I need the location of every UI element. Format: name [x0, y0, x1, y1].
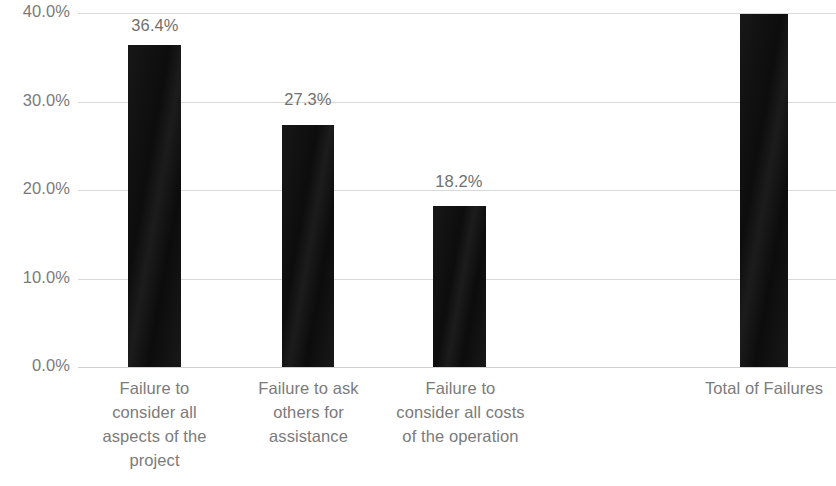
y-axis-tick-label: 10.0%	[0, 268, 70, 287]
bar-value-label: 36.4%	[96, 16, 214, 35]
y-axis-tick-label: 40.0%	[0, 2, 70, 21]
bar-value-label: 18.2%	[400, 172, 518, 191]
gridline	[78, 13, 836, 14]
x-axis-category-label: Failure toconsider all costsof the opera…	[388, 376, 533, 448]
x-axis-label-line: Failure to	[388, 376, 533, 400]
x-axis-category-label: Total of Failures	[668, 376, 836, 400]
bar[interactable]	[433, 206, 486, 367]
x-axis-category-label: Failure to askothers forassistance	[238, 376, 379, 448]
x-axis-label-line: aspects of the	[84, 424, 225, 448]
bar[interactable]	[740, 14, 788, 367]
x-axis-category-label: Failure toconsider allaspects of theproj…	[84, 376, 225, 472]
x-axis-label-line: project	[84, 448, 225, 472]
y-axis-tick-label: 20.0%	[0, 179, 70, 198]
bar-value-label: 27.3%	[249, 90, 367, 109]
gridline	[78, 367, 836, 368]
x-axis-label-line: Failure to	[84, 376, 225, 400]
x-axis-label-line: Failure to ask	[238, 376, 379, 400]
x-axis-label-line: Total of Failures	[668, 376, 836, 400]
x-axis-label-line: consider all	[84, 400, 225, 424]
x-axis-label-line: others for	[238, 400, 379, 424]
y-axis-tick-label: 30.0%	[0, 91, 70, 110]
x-axis-categories: Failure toconsider allaspects of theproj…	[0, 376, 836, 486]
x-axis-label-line: assistance	[238, 424, 379, 448]
bar[interactable]	[282, 125, 334, 367]
x-axis-label-line: of the operation	[388, 424, 533, 448]
x-axis-label-line: consider all costs	[388, 400, 533, 424]
y-axis: 40.0%30.0%20.0%10.0%0.0%	[0, 13, 70, 367]
y-axis-tick-label: 0.0%	[0, 356, 70, 375]
bar[interactable]	[128, 45, 181, 367]
bar-chart: 40.0%30.0%20.0%10.0%0.0% 36.4%27.3%18.2%…	[0, 0, 836, 486]
gridline	[78, 102, 836, 103]
